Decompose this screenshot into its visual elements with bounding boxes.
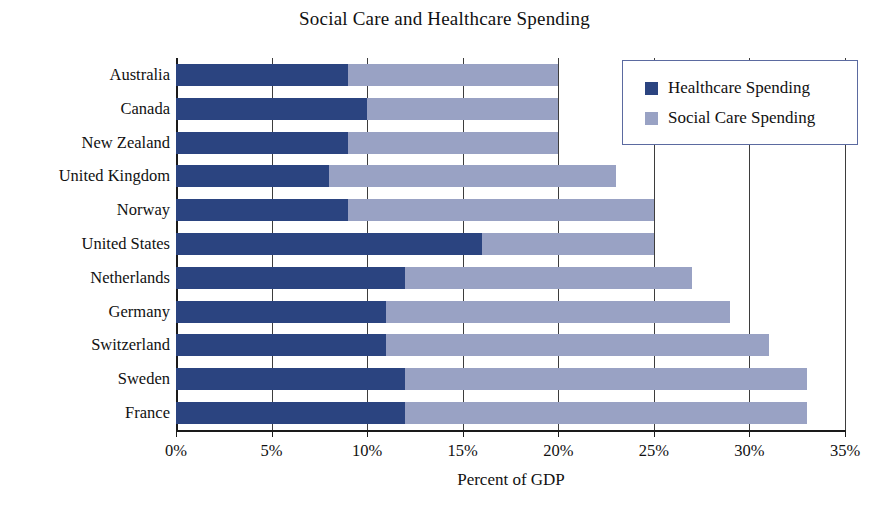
bar-row bbox=[176, 267, 845, 289]
bar-segment-social-care bbox=[329, 165, 616, 187]
bar-row bbox=[176, 233, 845, 255]
category-label: Germany bbox=[2, 302, 170, 322]
x-tick-label: 5% bbox=[242, 441, 302, 461]
category-label: Norway bbox=[2, 200, 170, 220]
bar-row bbox=[176, 199, 845, 221]
bar-segment-healthcare bbox=[176, 98, 367, 120]
x-tick-label: 0% bbox=[146, 441, 206, 461]
legend-item-social-care: Social Care Spending bbox=[645, 106, 815, 130]
bar-segment-healthcare bbox=[176, 199, 348, 221]
bar-segment-social-care bbox=[348, 64, 558, 86]
category-label: France bbox=[2, 403, 170, 423]
category-label: Switzerland bbox=[2, 335, 170, 355]
x-tick-label: 25% bbox=[624, 441, 684, 461]
bar-segment-social-care bbox=[386, 301, 730, 323]
bar-segment-healthcare bbox=[176, 132, 348, 154]
category-label: United Kingdom bbox=[2, 166, 170, 186]
bar-row bbox=[176, 368, 845, 390]
tick-mark-30pct bbox=[749, 430, 750, 437]
category-label: Sweden bbox=[2, 369, 170, 389]
category-label: New Zealand bbox=[2, 133, 170, 153]
bar-segment-social-care bbox=[348, 199, 654, 221]
bar-segment-social-care bbox=[405, 267, 692, 289]
tick-mark-5pct bbox=[272, 430, 273, 437]
bar-segment-social-care bbox=[386, 334, 768, 356]
legend-label-social-care: Social Care Spending bbox=[668, 108, 815, 128]
chart-container: Social Care and Healthcare Spending Aust… bbox=[0, 0, 889, 519]
tick-mark-15pct bbox=[463, 430, 464, 437]
legend-swatch-healthcare-icon bbox=[645, 82, 658, 95]
bar-segment-healthcare bbox=[176, 165, 329, 187]
category-label: Canada bbox=[2, 99, 170, 119]
legend-swatch-social-care-icon bbox=[645, 112, 658, 125]
bar-row bbox=[176, 334, 845, 356]
bar-row bbox=[176, 301, 845, 323]
tick-mark-20pct bbox=[558, 430, 559, 437]
chart-legend: Healthcare Spending Social Care Spending bbox=[622, 60, 858, 145]
bar-segment-social-care bbox=[482, 233, 654, 255]
bar-segment-social-care bbox=[405, 368, 806, 390]
bar-row bbox=[176, 402, 845, 424]
x-axis-title: Percent of GDP bbox=[176, 470, 846, 490]
x-tick-label: 15% bbox=[433, 441, 493, 461]
category-label: Netherlands bbox=[2, 268, 170, 288]
x-tick-label: 30% bbox=[719, 441, 779, 461]
bar-segment-healthcare bbox=[176, 301, 386, 323]
tick-mark-0pct bbox=[176, 430, 177, 437]
chart-title: Social Care and Healthcare Spending bbox=[0, 8, 889, 30]
x-tick-label: 10% bbox=[337, 441, 397, 461]
legend-item-healthcare: Healthcare Spending bbox=[645, 76, 810, 100]
bar-segment-healthcare bbox=[176, 64, 348, 86]
bar-segment-healthcare bbox=[176, 402, 405, 424]
bar-segment-social-care bbox=[367, 98, 558, 120]
bar-segment-social-care bbox=[348, 132, 558, 154]
bar-segment-healthcare bbox=[176, 368, 405, 390]
bar-row bbox=[176, 165, 845, 187]
tick-mark-25pct bbox=[654, 430, 655, 437]
y-axis-category-labels: AustraliaCanadaNew ZealandUnited Kingdom… bbox=[0, 58, 170, 430]
bar-segment-healthcare bbox=[176, 334, 386, 356]
x-axis-line bbox=[176, 430, 846, 432]
bar-segment-healthcare bbox=[176, 233, 482, 255]
category-label: Australia bbox=[2, 65, 170, 85]
x-tick-label: 35% bbox=[815, 441, 875, 461]
legend-label-healthcare: Healthcare Spending bbox=[668, 78, 810, 98]
tick-mark-35pct bbox=[845, 430, 846, 437]
bar-segment-healthcare bbox=[176, 267, 405, 289]
bar-segment-social-care bbox=[405, 402, 806, 424]
tick-mark-10pct bbox=[367, 430, 368, 437]
x-tick-label: 20% bbox=[528, 441, 588, 461]
category-label: United States bbox=[2, 234, 170, 254]
